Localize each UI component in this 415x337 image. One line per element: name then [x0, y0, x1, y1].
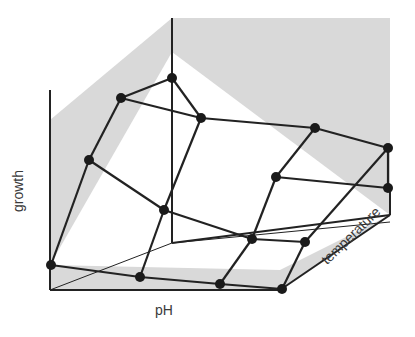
data-point: [383, 183, 393, 193]
axis-label-growth: growth: [10, 170, 26, 212]
data-point: [300, 237, 310, 247]
mesh-edge: [140, 210, 164, 277]
data-point: [159, 205, 169, 215]
data-point: [277, 284, 287, 294]
data-point: [167, 73, 177, 83]
surface-diagram: [0, 0, 415, 337]
data-point: [215, 279, 225, 289]
data-point: [84, 155, 94, 165]
mesh-edge: [252, 239, 305, 242]
wall-back-left: [50, 18, 172, 265]
mesh-edge: [164, 210, 252, 239]
data-point: [135, 272, 145, 282]
data-point: [116, 93, 126, 103]
data-point: [247, 234, 257, 244]
axis-label-ph: pH: [155, 302, 173, 318]
data-point: [271, 172, 281, 182]
data-point: [383, 143, 393, 153]
data-point: [196, 113, 206, 123]
data-point: [46, 260, 56, 270]
mesh-edge: [89, 160, 164, 210]
data-point: [310, 123, 320, 133]
mesh-edge: [164, 118, 201, 210]
